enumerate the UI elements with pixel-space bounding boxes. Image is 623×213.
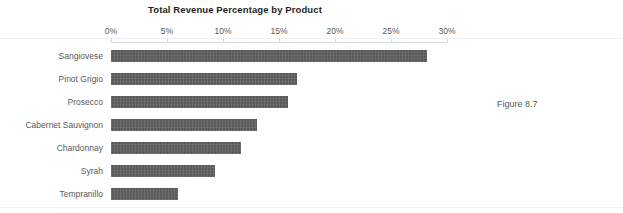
category-label: Pinot Grigio — [0, 74, 103, 84]
category-label: Syrah — [0, 166, 103, 176]
x-axis-line — [111, 42, 447, 43]
category-label: Tempranillo — [0, 189, 103, 199]
x-tick-label: 5% — [147, 26, 187, 36]
x-tick-label: 15% — [259, 26, 299, 36]
bar — [111, 50, 427, 62]
category-label: Sangiovese — [0, 51, 103, 61]
figure-container: Total Revenue Percentage by Product 0%5%… — [0, 0, 623, 213]
bar — [111, 165, 215, 177]
category-label: Chardonnay — [0, 143, 103, 153]
bar — [111, 142, 241, 154]
bar — [111, 96, 288, 108]
x-tick-label: 25% — [371, 26, 411, 36]
x-tick-label: 20% — [315, 26, 355, 36]
category-label: Prosecco — [0, 97, 103, 107]
x-tick-mark — [447, 38, 448, 43]
bar — [111, 119, 257, 131]
x-tick-label: 10% — [203, 26, 243, 36]
category-label: Cabernet Sauvignon — [0, 120, 103, 130]
figure-caption: Figure 8.7 — [497, 99, 538, 109]
x-tick-label: 30% — [427, 26, 467, 36]
bar — [111, 188, 178, 200]
bar — [111, 73, 297, 85]
x-tick-label: 0% — [91, 26, 131, 36]
